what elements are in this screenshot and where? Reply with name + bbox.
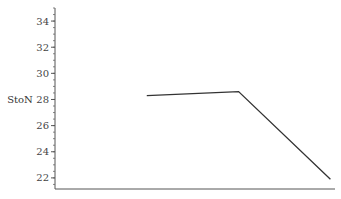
series-group — [147, 92, 331, 180]
y-tick-label: 34 — [36, 16, 49, 27]
line-chart: 22242628303234 StoN — [0, 0, 341, 199]
y-tick-label: 26 — [36, 120, 49, 131]
y-tick-label: 24 — [36, 146, 49, 157]
y-tick-label: 28 — [36, 94, 49, 105]
y-tick-label: 32 — [36, 42, 49, 53]
y-tick-label: 22 — [36, 172, 49, 183]
y-axis-label: StoN — [7, 94, 33, 105]
series-line-ston — [147, 92, 331, 180]
axes — [55, 8, 335, 189]
y-tick-label: 30 — [36, 68, 49, 79]
y-ticks: 22242628303234 — [36, 8, 55, 184]
